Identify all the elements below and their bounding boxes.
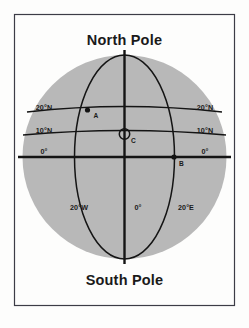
longitude-label-20w: 20°W	[70, 203, 88, 212]
point-c-label: C	[131, 137, 136, 144]
latitude-label-20n-left: 20°N	[36, 103, 52, 112]
latitude-label-10n-right: 10°N	[197, 126, 213, 135]
latitude-label-20n-right: 20°N	[197, 103, 213, 112]
point-a-marker	[85, 107, 90, 112]
globe-diagram-figure: North Pole South Pole 20°N 10°N 0° 20°N …	[0, 0, 249, 328]
longitude-label-20e: 20°E	[178, 203, 194, 212]
north-pole-label: North Pole	[87, 32, 162, 48]
latitude-label-0-left: 0°	[40, 147, 47, 156]
point-b-marker	[171, 154, 176, 159]
longitude-label-0: 0°	[134, 203, 141, 212]
globe-diagram-canvas: North Pole South Pole 20°N 10°N 0° 20°N …	[0, 0, 249, 328]
point-b-label: B	[179, 160, 184, 167]
latitude-label-0-right: 0°	[201, 147, 208, 156]
point-a-label: A	[94, 112, 99, 119]
south-pole-label: South Pole	[86, 272, 164, 288]
latitude-label-10n-left: 10°N	[36, 126, 52, 135]
